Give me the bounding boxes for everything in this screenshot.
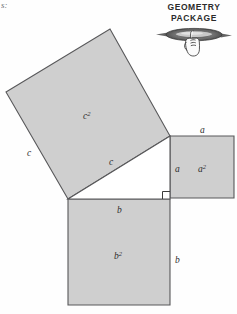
- page-canvas: s: GEOMETRY PACKAGE: [0, 0, 237, 314]
- pythagorean-theorem-diagram: c2 c c a a a2 b b2 b: [0, 0, 237, 314]
- label-side-b-top: b: [117, 205, 122, 215]
- label-side-b-right: b: [175, 255, 180, 265]
- label-side-c-left: c: [27, 148, 32, 158]
- label-side-a-top: a: [200, 125, 205, 135]
- label-side-a-left: a: [175, 164, 180, 174]
